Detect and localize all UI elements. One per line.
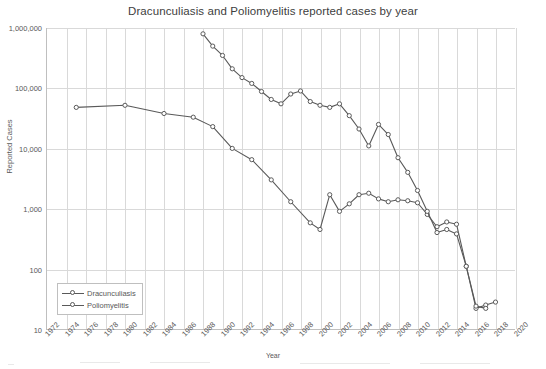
chart-legend: Dracunculiasis Poliomyelitis bbox=[57, 283, 143, 315]
y-tick-label: 1,000 bbox=[23, 205, 42, 214]
data-point-marker bbox=[386, 132, 390, 136]
data-point-marker bbox=[289, 200, 293, 204]
legend-label: Dracunculiasis bbox=[87, 289, 136, 298]
data-point-marker bbox=[337, 102, 341, 106]
data-point-marker bbox=[425, 209, 429, 213]
y-tick-label: 1,000,000 bbox=[9, 24, 42, 33]
scan-artifact bbox=[420, 363, 490, 364]
data-point-marker bbox=[220, 53, 224, 57]
data-point-marker bbox=[328, 105, 332, 109]
data-point-marker bbox=[211, 125, 215, 129]
data-point-marker bbox=[493, 300, 497, 304]
gridline-vertical bbox=[516, 28, 517, 329]
data-point-marker bbox=[454, 222, 458, 226]
legend-item-poliomyelitis[interactable]: Poliomyelitis bbox=[62, 299, 136, 311]
data-point-marker bbox=[230, 67, 234, 71]
legend-marker-icon bbox=[62, 288, 84, 298]
data-point-marker bbox=[74, 105, 78, 109]
legend-item-dracunculiasis[interactable]: Dracunculiasis bbox=[62, 287, 136, 299]
data-point-marker bbox=[367, 191, 371, 195]
data-point-marker bbox=[298, 89, 302, 93]
data-point-marker bbox=[406, 199, 410, 203]
data-point-marker bbox=[474, 304, 478, 308]
data-point-marker bbox=[396, 198, 400, 202]
data-point-marker bbox=[279, 102, 283, 106]
x-axis-ticks: 1972197419761978198019821984198619881990… bbox=[46, 332, 515, 364]
data-point-marker bbox=[396, 156, 400, 160]
data-point-marker bbox=[347, 202, 351, 206]
data-point-marker bbox=[347, 114, 351, 118]
data-point-marker bbox=[240, 76, 244, 80]
data-point-marker bbox=[230, 146, 234, 150]
scan-artifact bbox=[80, 362, 120, 363]
chart-title: Dracunculiasis and Poliomyelitis reporte… bbox=[0, 5, 546, 17]
data-point-marker bbox=[376, 197, 380, 201]
data-point-marker bbox=[464, 264, 468, 268]
data-point-marker bbox=[318, 227, 322, 231]
data-point-marker bbox=[269, 97, 273, 101]
data-point-marker bbox=[123, 103, 127, 107]
data-point-marker bbox=[250, 158, 254, 162]
x-axis-label: Year bbox=[0, 352, 546, 359]
data-point-marker bbox=[289, 92, 293, 96]
data-point-marker bbox=[357, 127, 361, 131]
series-dracunculiasis bbox=[74, 103, 497, 310]
data-point-marker bbox=[357, 193, 361, 197]
y-tick-label: 100,000 bbox=[15, 84, 42, 93]
data-point-marker bbox=[162, 111, 166, 115]
data-point-marker bbox=[386, 200, 390, 204]
series-line bbox=[76, 105, 495, 308]
scan-artifact bbox=[150, 362, 210, 363]
data-point-marker bbox=[308, 99, 312, 103]
data-point-marker bbox=[259, 89, 263, 93]
scan-artifact bbox=[300, 363, 390, 364]
y-tick-label: 10,000 bbox=[19, 144, 42, 153]
data-point-marker bbox=[376, 122, 380, 126]
series-poliomyelitis bbox=[201, 32, 488, 311]
data-point-marker bbox=[484, 306, 488, 310]
data-point-marker bbox=[445, 220, 449, 224]
data-point-marker bbox=[201, 32, 205, 36]
y-tick-label: 100 bbox=[29, 265, 42, 274]
chart-container: Dracunculiasis and Poliomyelitis reporte… bbox=[0, 0, 546, 369]
data-point-marker bbox=[435, 230, 439, 234]
data-point-marker bbox=[367, 144, 371, 148]
y-axis-label: Reported Cases bbox=[5, 112, 14, 182]
data-point-marker bbox=[445, 227, 449, 231]
series-line bbox=[203, 34, 486, 309]
data-point-marker bbox=[406, 170, 410, 174]
data-point-marker bbox=[191, 115, 195, 119]
data-point-marker bbox=[415, 188, 419, 192]
data-point-marker bbox=[318, 103, 322, 107]
data-point-marker bbox=[308, 221, 312, 225]
data-point-marker bbox=[211, 44, 215, 48]
data-point-marker bbox=[415, 201, 419, 205]
data-point-marker bbox=[454, 232, 458, 236]
scan-artifact bbox=[8, 364, 14, 365]
y-tick-label: 10 bbox=[34, 326, 42, 335]
data-point-marker bbox=[269, 178, 273, 182]
legend-label: Poliomyelitis bbox=[87, 301, 129, 310]
data-point-marker bbox=[250, 81, 254, 85]
legend-marker-icon bbox=[62, 300, 84, 310]
data-point-marker bbox=[328, 193, 332, 197]
data-point-marker bbox=[337, 209, 341, 213]
